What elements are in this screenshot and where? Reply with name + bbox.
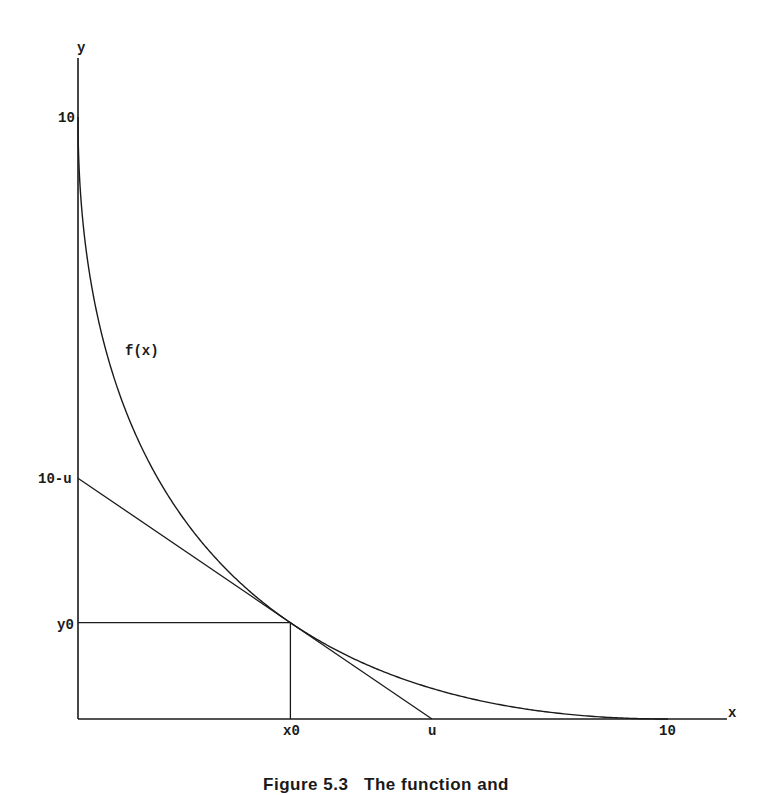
x-axis-label: x: [728, 705, 737, 721]
figure-caption: Figure 5.3 The function and: [0, 775, 772, 795]
x-tick-x0: x0: [283, 723, 300, 739]
y-axis-label: y: [77, 40, 86, 56]
curve-f-of-x: [78, 117, 668, 719]
y-tick-10-minus-u: 10-u: [38, 471, 72, 487]
curve-label: f(x): [125, 343, 159, 359]
x-tick-u: u: [428, 723, 436, 739]
tangent-line: [78, 478, 432, 719]
y-tick-y0: y0: [57, 617, 74, 633]
x-tick-10: 10: [659, 723, 676, 739]
y-tick-10: 10: [58, 110, 75, 126]
